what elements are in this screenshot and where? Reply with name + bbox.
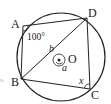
label-b: B [11, 75, 19, 89]
center-point [58, 59, 61, 62]
margin-fragment: °' [0, 78, 4, 86]
central-angle-b-label: b [49, 43, 54, 54]
central-angle-a-label: a [62, 62, 67, 73]
angle-c-arc [85, 84, 90, 88]
label-c: C [91, 88, 99, 102]
side-dc [87, 18, 90, 89]
side-ab [21, 26, 23, 79]
segment-bd [21, 18, 87, 79]
inscribed-quadrilateral-diagram: A B C D O 100° b a x °' [0, 0, 111, 104]
label-d: D [88, 6, 97, 20]
side-ad [23, 18, 87, 26]
angle-c-label: x [78, 75, 84, 86]
label-a: A [11, 17, 20, 31]
angle-a-value: 100° [27, 32, 45, 42]
label-o: O [68, 52, 77, 66]
